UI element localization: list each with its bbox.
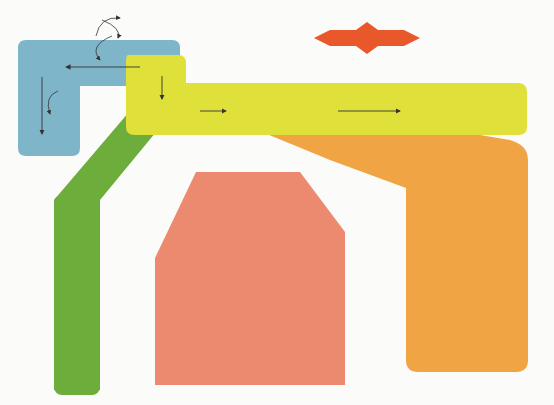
superoxide-star [314,22,420,54]
pathway-diagram-shapes [0,0,554,405]
glycolysis-region [126,55,527,135]
age-region [155,172,345,385]
